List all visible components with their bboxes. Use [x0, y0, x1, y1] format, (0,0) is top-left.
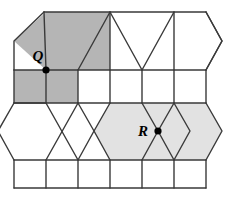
- lower-band-x2-b: [78, 103, 94, 160]
- q-hexagon-shade: [14, 12, 110, 70]
- vertex-label-r: R: [137, 123, 148, 139]
- upper-band-hex-right-outline: [206, 12, 222, 70]
- q-square-left-shade: [14, 70, 46, 103]
- vertex-dot-r: [154, 127, 161, 134]
- tiling-diagram: Q R: [0, 0, 228, 200]
- vertex-label-q: Q: [33, 48, 44, 64]
- upper-band-zigzag-c: [142, 12, 174, 70]
- lower-band-left-tip: [0, 103, 14, 160]
- upper-band-zigzag-b: [110, 12, 142, 70]
- tessellation-figure: Q R: [0, 0, 228, 200]
- upper-band-zigzag-e: [206, 12, 222, 70]
- q-square-right-shade: [46, 70, 78, 103]
- vertex-dot-q: [42, 66, 49, 73]
